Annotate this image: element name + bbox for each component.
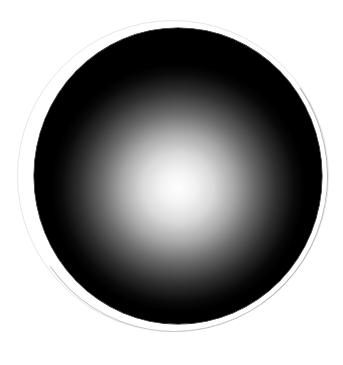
glowing-sphere	[34, 28, 322, 324]
